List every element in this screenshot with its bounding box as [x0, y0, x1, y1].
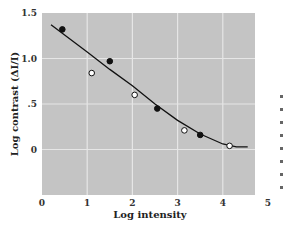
y-tick-label: .5 [28, 99, 37, 109]
filled-data-point [60, 27, 66, 33]
plot-area [42, 13, 255, 195]
y-axis-ticks: 1.51.0.50 [21, 8, 37, 155]
x-tick-label: 0 [39, 198, 45, 208]
open-data-point [89, 70, 95, 76]
x-tick-label: 2 [129, 198, 135, 208]
filled-data-point [197, 132, 203, 138]
open-data-point [182, 128, 188, 134]
x-axis-title: Log intensity [113, 209, 188, 220]
y-axis-title: Log contrast (ΔI/I) [9, 52, 20, 157]
page-margin-text-fragment [279, 95, 285, 225]
y-tick-label: 1.5 [21, 8, 37, 18]
y-tick-label: 1.0 [21, 54, 37, 64]
log-contrast-chart: 012345 1.51.0.50 Log intensity Log contr… [0, 0, 285, 233]
filled-data-point [107, 58, 113, 64]
y-tick-label: 0 [31, 145, 37, 155]
x-axis-ticks: 012345 [39, 198, 271, 208]
open-data-point [227, 143, 233, 149]
open-data-point [132, 92, 138, 98]
x-tick-label: 3 [174, 198, 180, 208]
x-tick-label: 1 [84, 198, 90, 208]
x-tick-label: 5 [265, 198, 271, 208]
x-tick-label: 4 [220, 198, 226, 208]
filled-data-point [154, 106, 160, 112]
